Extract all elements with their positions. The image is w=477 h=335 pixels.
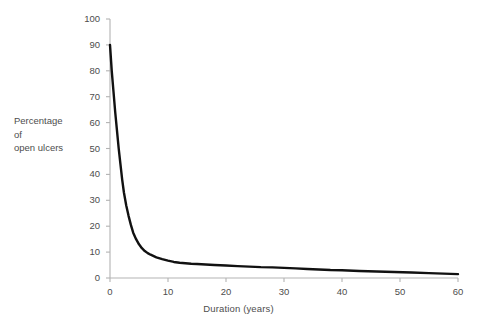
x-tick-label: 30: [273, 287, 295, 297]
y-tick-label: 40: [74, 169, 100, 179]
y-tick-label: 0: [74, 273, 100, 283]
x-tick-label: 50: [389, 287, 411, 297]
x-tick-label: 10: [157, 287, 179, 297]
x-tick-label: 60: [447, 287, 469, 297]
chart-figure: Percentage of open ulcers Duration (year…: [0, 0, 477, 335]
y-tick-label: 60: [74, 118, 100, 128]
y-tick-label: 100: [74, 14, 100, 24]
y-tick-label: 70: [74, 92, 100, 102]
y-tick-label: 50: [74, 144, 100, 154]
y-tick-label: 80: [74, 66, 100, 76]
y-tick-label: 30: [74, 195, 100, 205]
plot-area: [0, 0, 477, 335]
x-tick-label: 20: [215, 287, 237, 297]
y-tick-label: 10: [74, 247, 100, 257]
data-series-line: [110, 45, 458, 274]
x-tick-label: 40: [331, 287, 353, 297]
y-tick-label: 20: [74, 221, 100, 231]
y-tick-label: 90: [74, 40, 100, 50]
tick-marks-group: [106, 19, 458, 282]
x-tick-label: 0: [99, 287, 121, 297]
